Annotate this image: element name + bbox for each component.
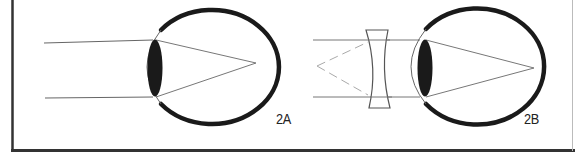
refracted-ray-bottom [156,63,256,97]
refracted-ray-bottom [426,68,534,97]
eyeball-outline [161,10,279,124]
concave-corrective-lens [366,30,390,108]
virtual-ray-bottom [317,66,368,95]
panel-label-2b: 2B [524,111,539,126]
crystalline-lens [148,40,163,97]
virtual-ray-top [317,42,368,66]
myopia-diagram [0,0,575,154]
panel-2a [44,10,279,124]
refracted-ray-top [426,40,534,68]
incoming-ray-top [44,40,153,43]
crystalline-lens [418,40,433,97]
incoming-ray-bottom [45,97,153,98]
panel-2b [313,8,544,124]
figure-frame [11,0,575,151]
panel-label-2a: 2A [276,111,291,126]
refracted-ray-top [156,40,256,63]
